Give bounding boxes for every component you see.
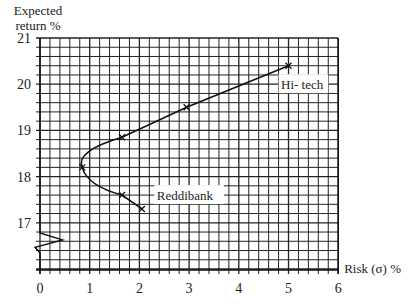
grid-lines (36, 38, 338, 274)
y-tick-label: 17 (17, 216, 31, 231)
x-tick-label: 5 (285, 281, 292, 296)
x-tick-label: 6 (335, 281, 342, 296)
y-tick-label: 20 (17, 77, 31, 92)
chart-plot: 01234561718192021Risk (σ) % Hi- techRedd… (0, 0, 415, 304)
x-tick-label: 2 (136, 281, 143, 296)
y-axis-break-icon (35, 232, 62, 274)
y-tick-label: 18 (17, 170, 31, 185)
y-tick-label: 19 (17, 123, 31, 138)
x-tick-label: 1 (86, 281, 93, 296)
x-tick-label: 4 (235, 281, 242, 296)
x-tick-label: 3 (186, 281, 193, 296)
axes (35, 38, 338, 274)
x-axis-label: Risk (σ) % (344, 261, 401, 276)
hitech-label: Hi- tech (281, 77, 324, 92)
reddibank-label: Reddibank (157, 188, 214, 203)
x-tick-label: 0 (37, 281, 44, 296)
y-tick-label: 21 (17, 31, 31, 46)
